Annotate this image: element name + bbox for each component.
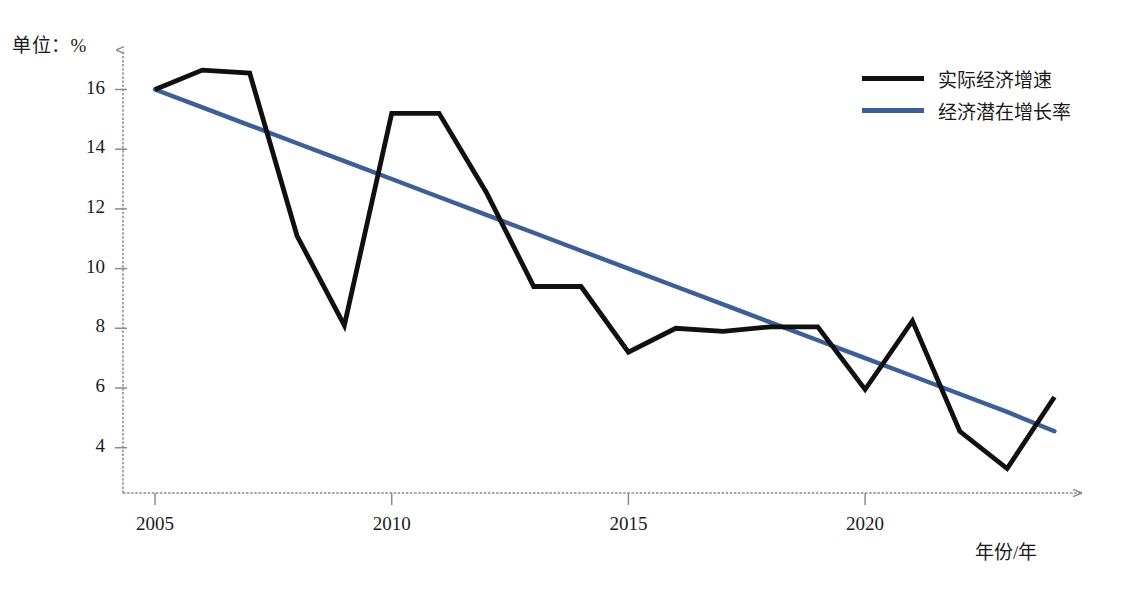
legend-label-potential-growth: 经济潜在增长率 bbox=[938, 97, 1071, 124]
legend-swatch-actual-growth bbox=[862, 76, 924, 81]
chart-page: 单位：% 年份/年 实际经济增速 经济潜在增长率 468101214162005… bbox=[0, 0, 1126, 609]
x-tick-label: 2020 bbox=[830, 513, 900, 535]
series-line-potential-growth bbox=[155, 90, 1054, 432]
x-tick-label: 2010 bbox=[357, 513, 427, 535]
series-group bbox=[155, 70, 1054, 468]
y-tick-label: 12 bbox=[65, 196, 105, 218]
legend-label-actual-growth: 实际经济增速 bbox=[938, 65, 1052, 92]
y-tick-label: 14 bbox=[65, 136, 105, 158]
legend-item-actual-growth[interactable]: 实际经济增速 bbox=[862, 62, 1112, 94]
x-axis-title: 年份/年 bbox=[975, 537, 1037, 564]
figure-caption bbox=[0, 596, 1126, 609]
legend-swatch-potential-growth bbox=[862, 108, 924, 113]
y-tick-label: 4 bbox=[65, 435, 105, 457]
y-tick-label: 10 bbox=[65, 256, 105, 278]
x-axis-ticks bbox=[155, 493, 865, 505]
chart-legend: 实际经济增速 经济潜在增长率 bbox=[862, 62, 1112, 126]
y-axis-unit-label: 单位：% bbox=[12, 30, 87, 57]
x-tick-label: 2005 bbox=[120, 513, 190, 535]
legend-item-potential-growth[interactable]: 经济潜在增长率 bbox=[862, 94, 1112, 126]
y-tick-label: 8 bbox=[65, 315, 105, 337]
series-line-actual-growth bbox=[155, 70, 1054, 468]
y-axis-ticks bbox=[115, 90, 127, 448]
y-tick-label: 6 bbox=[65, 375, 105, 397]
y-tick-label: 16 bbox=[65, 77, 105, 99]
x-tick-label: 2015 bbox=[593, 513, 663, 535]
